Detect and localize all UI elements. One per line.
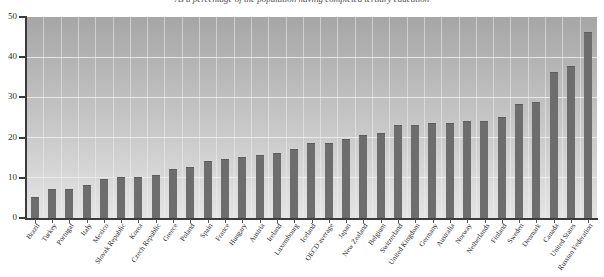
x-label-slot: Hungary <box>234 220 251 277</box>
bar-slot <box>112 17 129 218</box>
bar-slot <box>164 17 181 218</box>
bar[interactable] <box>411 125 419 218</box>
x-label-slot: Austria <box>251 220 268 277</box>
bar[interactable] <box>480 121 488 218</box>
bar[interactable] <box>204 161 212 218</box>
bar[interactable] <box>359 135 367 218</box>
bar-slot <box>562 17 579 218</box>
bar-slot <box>476 17 493 218</box>
y-tick-mark <box>19 177 26 179</box>
bar[interactable] <box>117 177 125 218</box>
x-label-slot: Italy <box>78 220 95 277</box>
x-label-slot: Netherlands <box>476 220 493 277</box>
bar-slot <box>95 17 112 218</box>
x-tick-label: Italy <box>79 222 93 237</box>
bar-slot <box>285 17 302 218</box>
y-tick-label: 50 <box>0 12 17 21</box>
bar-slot <box>320 17 337 218</box>
bar-slot <box>545 17 562 218</box>
x-label-slot: Finland <box>493 220 510 277</box>
bar-chart: As a percentage of the population having… <box>0 0 604 277</box>
bar-slot <box>528 17 545 218</box>
bar[interactable] <box>186 167 194 218</box>
y-axis <box>25 16 27 219</box>
x-label-slot: Russian Federation <box>580 220 597 277</box>
bar-slot <box>389 17 406 218</box>
bar-slot <box>580 17 597 218</box>
bar[interactable] <box>238 157 246 218</box>
x-label-slot: New Zealand <box>355 220 372 277</box>
bar[interactable] <box>31 197 39 218</box>
bar[interactable] <box>152 175 160 218</box>
bar-slot <box>268 17 285 218</box>
bar-slot <box>424 17 441 218</box>
x-label-slot: Greece <box>164 220 181 277</box>
x-tick-label: Spain <box>198 222 214 240</box>
bar[interactable] <box>48 189 56 218</box>
y-tick-mark <box>19 217 26 219</box>
plot-area <box>26 17 597 218</box>
y-tick-mark <box>19 137 26 139</box>
bar-slot <box>147 17 164 218</box>
x-label-slot: France <box>216 220 233 277</box>
x-label-slot: Luxembourg <box>286 220 303 277</box>
x-tick-label: Korea <box>128 222 145 241</box>
bar[interactable] <box>515 104 523 218</box>
x-label-slot: Poland <box>182 220 199 277</box>
bar[interactable] <box>256 155 264 218</box>
bar[interactable] <box>394 125 402 218</box>
bar[interactable] <box>65 189 73 218</box>
bar-slot <box>251 17 268 218</box>
bar[interactable] <box>550 72 558 218</box>
bar[interactable] <box>325 143 333 218</box>
bar-slot <box>458 17 475 218</box>
bar-slot <box>78 17 95 218</box>
x-tick-label: Austria <box>247 222 266 244</box>
y-tick-mark <box>19 56 26 58</box>
bar[interactable] <box>273 153 281 218</box>
bar-slot <box>372 17 389 218</box>
bar[interactable] <box>307 143 315 218</box>
bar[interactable] <box>169 169 177 218</box>
x-label-slot: Portugal <box>61 220 78 277</box>
bar[interactable] <box>100 179 108 218</box>
y-tick-mark <box>19 96 26 98</box>
bar-slot <box>199 17 216 218</box>
bar[interactable] <box>377 133 385 218</box>
chart-title: As a percentage of the population having… <box>0 0 604 4</box>
x-label-slot: Spain <box>199 220 216 277</box>
bar-slot <box>234 17 251 218</box>
bar[interactable] <box>290 149 298 218</box>
bar-slot <box>130 17 147 218</box>
x-label-slot: Brazil <box>26 220 43 277</box>
x-label-slot: Turkey <box>43 220 60 277</box>
bar-slot <box>407 17 424 218</box>
bar[interactable] <box>532 102 540 218</box>
bar[interactable] <box>428 123 436 218</box>
bar[interactable] <box>342 139 350 218</box>
bar[interactable] <box>83 185 91 218</box>
y-tick-label: 40 <box>0 52 17 61</box>
bar[interactable] <box>221 159 229 218</box>
bar-slot <box>337 17 354 218</box>
bar[interactable] <box>463 121 471 218</box>
x-label-slot: OECD average <box>320 220 337 277</box>
bar[interactable] <box>134 177 142 218</box>
bar[interactable] <box>498 117 506 219</box>
bar[interactable] <box>567 66 575 218</box>
y-tick-mark <box>19 16 26 18</box>
bar[interactable] <box>584 32 592 218</box>
y-tick-label: 30 <box>0 92 17 101</box>
x-tick-label: Greece <box>161 222 179 243</box>
bar-slot <box>216 17 233 218</box>
y-tick-label: 10 <box>0 173 17 182</box>
bar[interactable] <box>446 123 454 218</box>
x-label-slot: Sweden <box>510 220 527 277</box>
bar-slot <box>43 17 60 218</box>
bar-slot <box>182 17 199 218</box>
x-tick-label: Brazil <box>25 222 42 241</box>
bar-slot <box>441 17 458 218</box>
x-tick-label: Japan <box>337 222 353 240</box>
x-label-slot: Denmark <box>528 220 545 277</box>
x-label-slot: Czech Republic <box>147 220 164 277</box>
